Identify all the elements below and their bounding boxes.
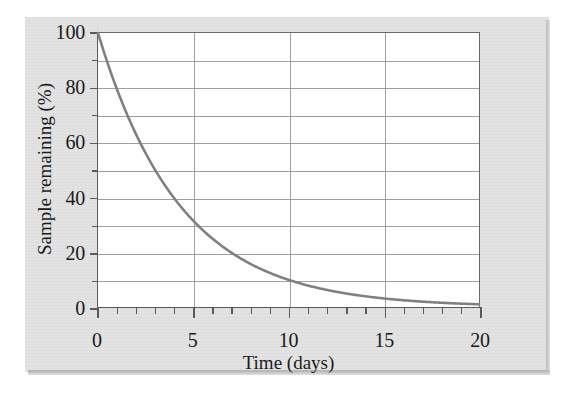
x-tick-label: 20: [450, 330, 510, 350]
x-tick-label: 10: [259, 330, 319, 350]
x-tick-label: 5: [163, 330, 223, 350]
x-axis-tick-labels: 05101520: [0, 0, 574, 407]
y-axis-title: Sample remaining (%): [34, 54, 56, 284]
chart: 020406080100 05101520 Time (days) Sample…: [0, 0, 574, 407]
figure-screenshot: 020406080100 05101520 Time (days) Sample…: [0, 0, 574, 407]
x-tick-label: 15: [354, 330, 414, 350]
x-axis-title: Time (days): [97, 352, 480, 374]
x-tick-label: 0: [67, 330, 127, 350]
